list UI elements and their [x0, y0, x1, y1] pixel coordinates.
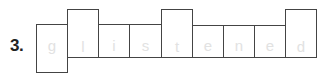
- letter-box-8: e: [254, 25, 286, 58]
- letter-n: n: [224, 38, 254, 54]
- letter-box-6: e: [192, 25, 224, 58]
- letter-e: e: [193, 38, 223, 54]
- letter-t: t: [162, 39, 192, 55]
- letter-i: i: [99, 38, 129, 54]
- letter-box-3: i: [98, 24, 130, 58]
- question-number: 3.: [10, 36, 23, 56]
- letter-box-9: d: [285, 9, 317, 58]
- letter-e-2: e: [255, 38, 285, 54]
- letter-l: l: [68, 39, 98, 55]
- letter-s: s: [130, 38, 161, 54]
- letter-box-4: s: [129, 24, 162, 58]
- letter-g: g: [37, 38, 67, 54]
- letter-box-1: g: [36, 24, 68, 73]
- letter-box-5: t: [161, 9, 193, 58]
- letter-d: d: [286, 39, 316, 55]
- letter-box-2: l: [67, 9, 99, 58]
- letter-box-7: n: [223, 25, 255, 58]
